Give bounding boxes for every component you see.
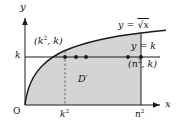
sqrt-label-prefix: y = (118, 19, 137, 30)
pt-k-tail: , k) (47, 35, 63, 46)
lattice-dot (84, 55, 88, 59)
region-label-d-prime: D′ (78, 74, 88, 84)
x-tick-n-exp: 2 (141, 108, 145, 114)
x-tick-label-n-squared: n2 (135, 109, 144, 119)
sqrt-label-func: √x (137, 19, 148, 30)
y-axis-arrow-icon (22, 18, 28, 25)
lattice-dot (63, 55, 67, 59)
point-label-k-squared-k: (k2, k) (34, 36, 63, 46)
x-tick-k-exp: 2 (65, 108, 69, 114)
line-label-y-equals-k: y = k (131, 41, 156, 51)
y-axis-label: y (20, 2, 26, 12)
curve-label-y-equals-sqrt-x: y = √x (118, 20, 149, 30)
lattice-dot (74, 55, 78, 59)
point-label-n-squared-k: (n2, k) (128, 59, 157, 69)
x-axis-arrow-icon (153, 102, 160, 108)
pt-n-base: (n (128, 58, 138, 69)
origin-label: O (13, 107, 20, 116)
y-tick-label-k: k (15, 51, 20, 60)
x-tick-label-k-squared: k2 (60, 109, 69, 119)
x-axis-label: x (165, 99, 171, 109)
pt-n-tail: , k) (142, 58, 158, 69)
figure-canvas: y x O k k2 n2 y = √x y = k (k2, k) (n2, … (0, 0, 183, 136)
